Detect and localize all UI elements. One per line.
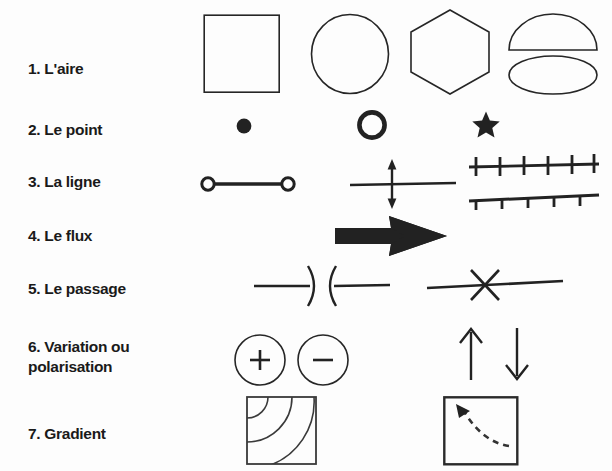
ring-outline-icon [355, 108, 389, 142]
row-label-5-passage: 5. Le passage [28, 279, 126, 298]
arrow-up-icon [454, 326, 488, 382]
square-outline-icon [203, 14, 281, 94]
thick-flow-arrow-icon [333, 214, 451, 258]
row-label-3-ligne: 3. La ligne [28, 172, 101, 191]
line-with-double-arrow-crossing-icon [348, 158, 458, 210]
dome-over-ellipse-icon [501, 9, 605, 97]
filled-star-icon [471, 110, 501, 140]
row-label-6-variation: 6. Variation ou [28, 337, 129, 356]
row-label-6-variation-line2: polarisation [28, 357, 112, 376]
legend-page: 1. L'aire 2. Le point 3. La ligne 4. Le … [0, 0, 612, 471]
square-with-isoline-arcs-icon [246, 396, 318, 466]
hexagon-outline-icon [407, 8, 493, 96]
line-with-x-barrier-icon [425, 264, 565, 306]
circle-plus-icon [232, 332, 288, 388]
circle-minus-icon [295, 332, 351, 388]
filled-dot-icon [234, 116, 254, 136]
line-with-down-ticks-icon [466, 190, 602, 214]
row-label-1-aire: 1. L'aire [28, 59, 83, 78]
arrow-down-icon [500, 326, 534, 382]
circle-outline-icon [310, 13, 390, 95]
row-label-2-point: 2. Le point [28, 120, 102, 139]
line-with-cross-ticks-icon [466, 153, 602, 179]
square-with-dashed-gradient-arrow-icon [443, 396, 519, 466]
line-with-facing-brackets-icon [252, 262, 392, 308]
row-label-7-gradient: 7. Gradient [28, 424, 106, 443]
line-with-end-nodes-icon [198, 172, 298, 196]
row-label-4-flux: 4. Le flux [28, 226, 92, 245]
